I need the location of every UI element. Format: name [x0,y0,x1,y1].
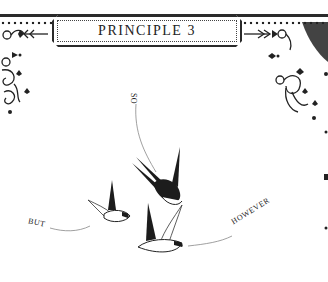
right-corner-ornament-icon [242,22,328,132]
title-banner: PRINCIPLE 3 [52,15,242,47]
right-edge-marks [322,120,328,282]
label-however: HOWEVER [230,196,272,227]
swallow-center-icon [134,203,194,263]
book-page: PRINCIPLE 3 [0,0,328,282]
however-leader-line [186,232,236,252]
label-but: BUT [27,216,46,228]
but-leader-line [48,222,98,242]
left-corner-ornament-icon [0,22,60,117]
page-title: PRINCIPLE 3 [98,23,196,39]
